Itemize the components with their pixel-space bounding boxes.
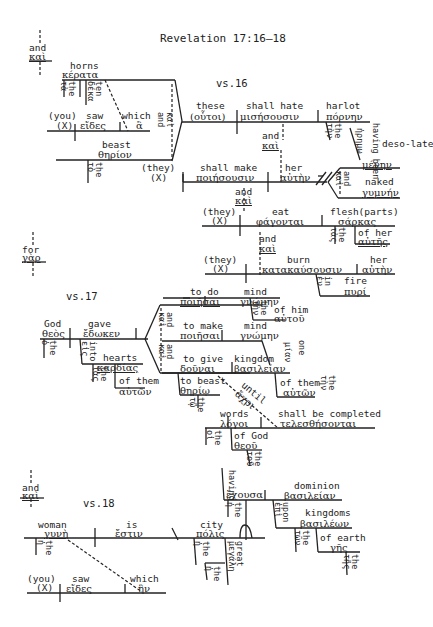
article-the-o-gr: ὁ [40,340,49,345]
word-which-gr: ἃ [136,120,143,131]
article-the-e3-gr: ἡ [204,566,213,571]
word-of-them1-en: of them [119,376,159,386]
word-harlot-gr: πόρνην [326,111,363,122]
diagram-title: Revelation 17:16–18 [160,32,286,45]
word-fire-en: fire [344,276,367,286]
word-which-gr-18: ἣν [138,583,150,594]
word-kingdoms-gr: βασιλέων [300,518,349,529]
word-desolate-gr: μένην [362,159,392,170]
word-of-him-gr: αὐτοῦ [274,313,304,324]
word-shall-hate-en: shall hate [246,101,303,111]
article-the-ten-gr: τὴν [325,123,334,138]
word-of-god-gr: θεοῦ [234,440,257,451]
word-kingdoms-en: kingdoms [305,508,351,518]
article-the-e2-gr: ἡ [193,541,202,546]
article-the-tas-gr: τὰς [329,227,338,242]
word-is-gr: ἔστιν [115,528,143,539]
word-burn-gr: κατακαύσουσιν [262,264,342,275]
word-having-been-gr: ἠρημω [355,128,364,154]
article-the-to-gr: τῷ [188,397,197,407]
article-the-to-gr: τὸ [86,162,95,172]
word-they1-gr: (X) [150,173,167,183]
word-of-them2-gr: αὐτῶν [283,387,316,398]
word-city-gr: πόλις [196,528,224,539]
word-of-her-gr: αὐτῆς [358,236,388,247]
word-to-do-gr: ποιῆσαι [180,296,220,307]
article-the-tas-gr: τὰς [91,366,100,381]
article-the-ton-gr: τῶν [293,530,302,545]
connector-for-gr: γὰρ [22,252,41,263]
word-great-gr: μεγάλη [227,541,236,572]
word-beast-gr: θηρίον [98,149,132,160]
word-fire-gr: πυρί [344,286,366,297]
word-kingdom-gr: βασιλείαν [234,363,286,374]
word-shall-hate-gr: μισήσουσιν [240,111,299,122]
conj-and-gr: καὶ [165,112,174,127]
word-they3-gr: (X) [212,264,229,274]
conj-and-en: and [156,112,165,127]
word-to-make-gr: ποιῆσαι [180,330,220,341]
connector-and-gr: καὶ [29,51,46,62]
word-of-earth-gr: γῆς [330,542,348,553]
word-her1-gr: αὐτὴν [280,172,310,183]
word-ten-gr: δέκα [86,81,95,101]
word-to-give-gr: δοῦναι [180,363,215,374]
article-the-ten1-gr: τὴν [251,300,260,315]
conj-and-c-gr: καὶ [235,195,252,206]
conj-and1-gr: καὶ [157,312,166,327]
article-the-e4-gr: ἡ [225,502,234,507]
word-having-gr: ἔχουσα [226,489,263,500]
word-they2-gr: (X) [211,216,228,226]
word-these-gr: (οὗτοι) [190,111,225,122]
word-naked-gr: γυμνήν [362,187,399,198]
article-the-oi-gr: οἱ [205,430,214,440]
verse-label-16: vs.16 [216,77,248,89]
word-shall-be-completed-gr: τελεσθήσονται [280,418,356,429]
word-one-gr: μίαν [283,342,292,362]
word-mind2-gr: γνώμην [240,330,279,341]
article-the-tou-gr: τοῦ [245,451,254,466]
word-one-en: one [297,340,306,355]
article-the-ten2-gr: τὴν [319,375,328,390]
word-of-them1-gr: αὐτῶν [119,386,152,397]
word-saw-gr-18: εἴδες [66,583,92,594]
word-you-gr-18: (X) [36,583,53,593]
word-flesh-gr: σάρκας [338,216,376,227]
prep-upon-gr: ἐπὶ [273,502,282,517]
word-shall-make-gr: ποιήσουσιν [196,172,254,183]
word-gave-gr: ἔδωκεν [83,328,120,339]
conj-and-b-gr: καὶ [334,171,343,186]
article-the-tes-gr: τῆς [342,554,351,569]
verse-label-17: vs.17 [66,290,98,302]
word-desolate-en: deso-late [382,139,433,149]
article-the-e-gr: ἡ [36,540,45,545]
word-horns-gr: κέρατα [62,69,98,80]
word-harlot-en: harlot [326,101,360,111]
word-naked-en: naked [365,177,394,187]
word-woman-gr: γυνὴ [44,528,68,539]
conj-and2-gr: καὶ [157,344,166,359]
word-having-been-en: having been [371,123,380,179]
word-her2-gr: αὐτὴν [362,264,392,275]
word-dominion-gr: βασιλείαν [284,490,336,501]
prep-into-gr: εἰς [80,341,89,356]
word-you-gr: (X) [56,121,73,131]
article-ta: τὰ [59,81,68,91]
verse-label-18: vs.18 [83,497,115,509]
conj-and-a-gr: καὶ [262,140,279,151]
word-eat-gr: φάγονται [256,216,304,227]
connector-and2-gr: καὶ [22,490,39,501]
word-to-beast-gr: θηρίῳ [180,385,210,396]
word-these-en: these [196,101,225,111]
word-words-gr: λόγοι [220,418,248,429]
word-god-gr: θεὸς [42,328,65,339]
conj-and-d-gr: καὶ [259,243,276,254]
word-saw-gr: εἴδες [80,120,106,131]
prep-in-gr: ἐν [315,276,324,286]
